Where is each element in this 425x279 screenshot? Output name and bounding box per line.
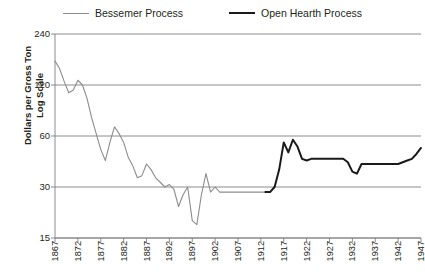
x-tick-label-1872: 1872 (73, 241, 83, 261)
x-tick-label-1877: 1877 (96, 241, 106, 261)
x-tick-label-1922: 1922 (302, 241, 312, 261)
y-tick-label-15: 15 (39, 233, 50, 243)
y-tick-label-30: 30 (39, 182, 50, 192)
series-line-bessemer (55, 61, 265, 224)
legend-item-open-hearth: Open Hearth Process (229, 8, 362, 19)
x-tick-label-1892: 1892 (164, 241, 174, 261)
plot-svg (55, 34, 421, 238)
x-tick-label-1917: 1917 (279, 241, 289, 261)
x-tick-label-1937: 1937 (370, 241, 380, 261)
y-tick-label-240: 240 (34, 29, 50, 39)
x-tick-label-1887: 1887 (142, 241, 152, 261)
x-tick-label-1942: 1942 (393, 241, 403, 261)
plot-area (55, 34, 421, 238)
x-tick-label-1897: 1897 (187, 241, 197, 261)
y-tick-label-60: 60 (39, 131, 50, 141)
bessemer-line-swatch (63, 13, 89, 14)
legend-label-open-hearth: Open Hearth Process (261, 8, 362, 19)
x-tick-label-1947: 1947 (416, 241, 425, 261)
y-tick-label-120: 120 (34, 80, 50, 90)
x-tick-label-1932: 1932 (347, 241, 357, 261)
legend-item-bessemer: Bessemer Process (63, 8, 183, 19)
legend-label-bessemer: Bessemer Process (95, 8, 183, 19)
steel-price-line-chart: Bessemer Process Open Hearth Process Dol… (0, 0, 425, 279)
y-axis-tick-labels: 153060120240 (24, 0, 50, 279)
chart-legend: Bessemer Process Open Hearth Process (0, 4, 425, 22)
x-tick-label-1902: 1902 (210, 241, 220, 261)
x-tick-label-1907: 1907 (233, 241, 243, 261)
x-tick-label-1882: 1882 (119, 241, 129, 261)
x-tick-label-1927: 1927 (325, 241, 335, 261)
x-axis-tick-labels: 1867187218771882188718921897190219071912… (55, 241, 421, 279)
x-tick-label-1912: 1912 (256, 241, 266, 261)
x-tick-label-1867: 1867 (50, 241, 60, 261)
open-hearth-line-swatch (229, 12, 255, 14)
series-line-open-hearth (265, 140, 421, 192)
